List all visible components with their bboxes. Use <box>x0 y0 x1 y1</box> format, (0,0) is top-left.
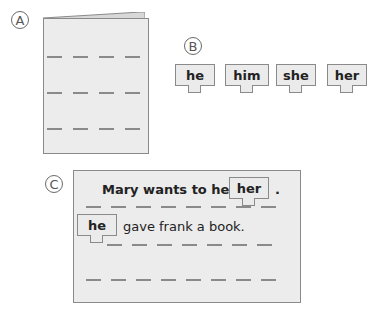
label-b: B <box>184 37 202 55</box>
word-tile-him[interactable]: him <box>225 64 269 94</box>
word-tile-label: she <box>276 64 316 86</box>
dash-row-2 <box>47 92 140 94</box>
tile-tab <box>242 198 255 206</box>
word-tile-he[interactable]: he <box>175 64 215 94</box>
placed-tile-he[interactable]: he <box>77 214 117 244</box>
dash-row-1 <box>47 56 140 58</box>
word-tile-label: her <box>229 177 269 199</box>
dash-row-2 <box>107 244 272 246</box>
tile-tab <box>188 85 201 93</box>
sentence-board: Mary wants to help her . he gave frank a… <box>73 170 301 303</box>
sentence-1-text: Mary wants to help <box>102 182 243 197</box>
tile-tab <box>90 235 103 243</box>
word-tile-label: he <box>77 214 117 236</box>
dash-row-3 <box>47 128 140 130</box>
label-c: C <box>45 175 63 193</box>
label-a: A <box>11 11 29 29</box>
tile-tab <box>289 85 302 93</box>
sentence-2-text: gave frank a book. <box>123 219 245 234</box>
word-tile-her[interactable]: her <box>327 64 367 94</box>
word-tile-label: her <box>327 64 367 86</box>
dash-row-1 <box>86 206 276 208</box>
dash-row-3 <box>86 279 276 281</box>
word-tile-she[interactable]: she <box>276 64 316 94</box>
word-tile-label: he <box>175 64 215 86</box>
book-illustration <box>43 18 149 154</box>
sentence-1-period: . <box>275 182 280 197</box>
tile-tab <box>340 85 353 93</box>
placed-tile-her[interactable]: her <box>229 177 269 207</box>
tile-tab <box>240 85 253 93</box>
word-tile-label: him <box>225 64 269 86</box>
